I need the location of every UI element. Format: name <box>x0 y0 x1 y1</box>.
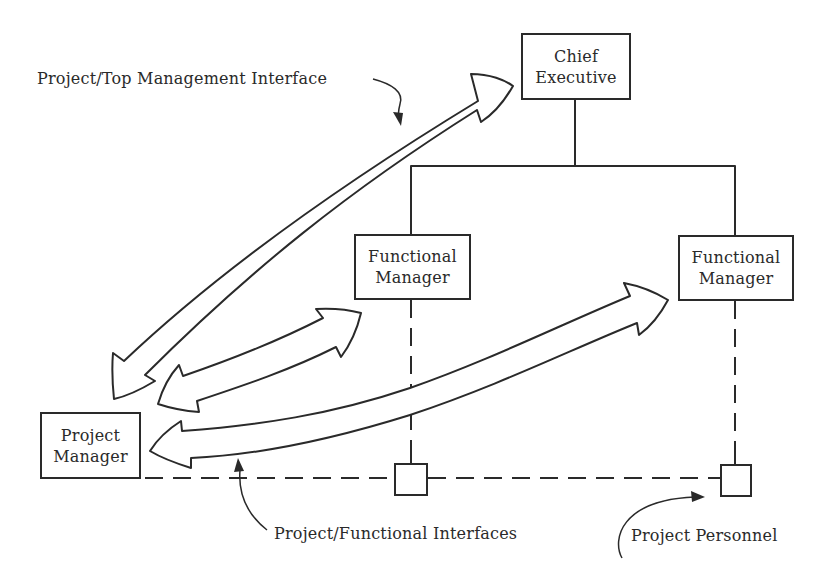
project-personnel-right-box <box>720 464 752 497</box>
top-management-interface-label: Project/Top Management Interface <box>37 69 327 88</box>
chief-executive-box: Chief Executive <box>521 33 631 100</box>
personnel-pointer-arrowhead <box>691 491 705 502</box>
project-manager-box: Project Manager <box>40 412 141 479</box>
chief-executive-line1: Chief <box>554 46 598 67</box>
functional-manager-left-line2: Manager <box>375 267 450 288</box>
project-personnel-left-box <box>394 463 428 496</box>
functional-manager-right-line2: Manager <box>699 268 774 289</box>
functional-pointer-arrowhead <box>234 458 244 472</box>
functional-manager-right-line1: Functional <box>692 247 781 268</box>
project-manager-line2: Manager <box>53 446 128 467</box>
top-pointer-arrowhead <box>393 112 403 126</box>
project-manager-line1: Project <box>61 425 120 446</box>
functional-manager-right-box: Functional Manager <box>678 235 794 301</box>
functional-interfaces-label: Project/Functional Interfaces <box>274 524 517 543</box>
project-personnel-label: Project Personnel <box>631 526 778 545</box>
functional-manager-left-box: Functional Manager <box>354 234 471 300</box>
chief-executive-line2: Executive <box>535 67 616 88</box>
functional-manager-left-line1: Functional <box>368 246 457 267</box>
